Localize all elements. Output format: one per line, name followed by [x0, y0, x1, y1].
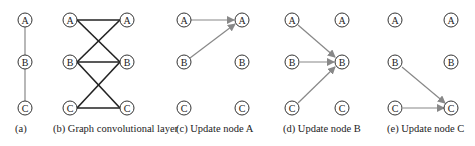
svg-text:C: C [181, 103, 188, 114]
panel-b-graph-conv-layer [77, 20, 120, 108]
panel-c-update-a [190, 20, 235, 58]
svg-text:B: B [392, 57, 399, 68]
caption-b: (b) Graph convolutional layer [53, 123, 178, 134]
node-c: C [18, 101, 32, 115]
svg-text:C: C [392, 103, 399, 114]
svg-text:A: A [338, 15, 346, 26]
svg-text:C: C [239, 103, 246, 114]
caption-c: (c) Update node A [176, 123, 253, 134]
svg-text:C: C [289, 103, 296, 114]
panel-d-nodes: A B C A B C [285, 13, 349, 115]
svg-text:B: B [339, 57, 346, 68]
caption-e: (e) Update node C [387, 123, 464, 134]
node-c-left: C [63, 101, 77, 115]
svg-text:B: B [124, 57, 131, 68]
node-b: B [18, 55, 32, 69]
node-b-right: B [120, 55, 134, 69]
node-a-right: A [120, 13, 134, 27]
svg-text:B: B [67, 57, 74, 68]
svg-text:B: B [239, 57, 246, 68]
svg-text:C: C [448, 103, 455, 114]
svg-text:A: A [66, 15, 74, 26]
node-a: A [18, 13, 32, 27]
node-c-right: C [120, 101, 134, 115]
caption-d: (d) Update node B [283, 123, 361, 134]
svg-text:A: A [21, 15, 29, 26]
svg-text:C: C [124, 103, 131, 114]
svg-text:C: C [339, 103, 346, 114]
panel-a-graph: A B C [18, 13, 32, 115]
svg-text:B: B [448, 57, 455, 68]
panel-e-nodes: A B C A B C [388, 13, 458, 115]
svg-text:C: C [22, 103, 29, 114]
node-a-left: A [63, 13, 77, 27]
panel-b-nodes: A B C A B C [63, 13, 134, 115]
svg-text:C: C [67, 103, 74, 114]
svg-text:A: A [447, 15, 455, 26]
svg-text:A: A [123, 15, 131, 26]
svg-text:B: B [22, 57, 29, 68]
svg-text:A: A [238, 15, 246, 26]
node-b-left: B [63, 55, 77, 69]
svg-text:B: B [181, 57, 188, 68]
svg-text:A: A [288, 15, 296, 26]
svg-text:A: A [391, 15, 399, 26]
svg-text:B: B [289, 57, 296, 68]
panel-e-update-c [402, 67, 445, 108]
caption-a: (a) [15, 123, 27, 134]
panel-d-update-b [298, 25, 335, 103]
svg-text:A: A [180, 15, 188, 26]
panel-c-nodes: A B C A B C [177, 13, 249, 115]
